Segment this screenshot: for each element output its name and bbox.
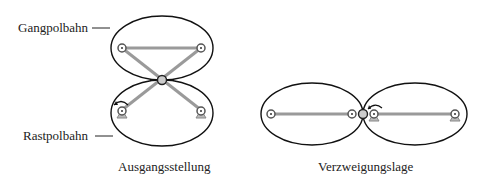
- figure-verzweigungslage: [261, 83, 467, 145]
- ground-support-icon: [369, 110, 379, 121]
- ground-support-icon: [117, 107, 127, 118]
- mechanism-diagram: [0, 0, 487, 186]
- ground-support-icon: [450, 110, 460, 121]
- figure-ausgangsstellung: [111, 16, 213, 146]
- pole-icon: [359, 110, 368, 119]
- ground-support-icon: [196, 107, 206, 118]
- pole-icon: [158, 76, 167, 85]
